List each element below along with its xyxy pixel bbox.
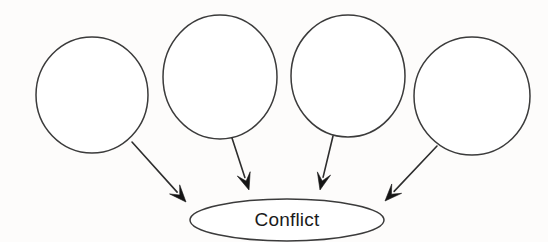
connector-group	[132, 136, 437, 202]
connector-line-4	[394, 146, 437, 191]
cause-circle-3[interactable]	[291, 15, 405, 137]
connector-line-3	[323, 136, 333, 177]
connector-line-2	[232, 138, 245, 177]
conflict-diagram: Conflict	[0, 0, 548, 242]
connector-arrow-1	[132, 142, 186, 202]
connector-arrow-2	[232, 138, 250, 190]
diagram-canvas: Conflict	[0, 0, 548, 242]
connector-arrow-3	[317, 136, 333, 190]
connector-line-1	[132, 142, 177, 192]
source-node-group	[36, 15, 530, 155]
cause-circle-2[interactable]	[163, 15, 277, 139]
center-node-group: Conflict	[190, 199, 384, 241]
cause-circle-1[interactable]	[36, 37, 148, 153]
conflict-label: Conflict	[255, 209, 320, 230]
connector-arrow-4	[385, 146, 437, 201]
cause-circle-4[interactable]	[414, 37, 530, 155]
